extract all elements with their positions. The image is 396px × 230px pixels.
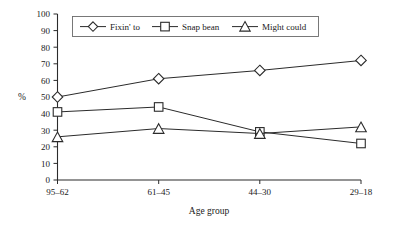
y-tick-label: 0: [46, 175, 51, 185]
series-layer: [52, 55, 366, 148]
square-marker: [53, 108, 62, 117]
x-tick-label: 29–18: [350, 187, 373, 197]
series-line: [58, 107, 362, 144]
y-tick-label: 50: [41, 92, 51, 102]
series-line: [58, 127, 362, 137]
x-axis-tick-labels: 95–62 61–45 44–30 29–18: [46, 187, 373, 197]
y-tick-label: 10: [41, 159, 51, 169]
y-tick-label: 80: [41, 43, 51, 53]
y-tick-label: 90: [41, 26, 51, 36]
line-chart: 100 90 80 70 60 50 40 30 20 10 0 % 95–62…: [0, 0, 396, 230]
series-line: [58, 60, 362, 97]
legend-label: Fixin' to: [110, 22, 140, 32]
y-axis-title: %: [18, 92, 26, 102]
y-tick-label: 100: [37, 9, 51, 19]
y-tick-label: 70: [41, 59, 51, 69]
y-tick-label: 20: [41, 142, 51, 152]
chart-canvas: 100 90 80 70 60 50 40 30 20 10 0 % 95–62…: [0, 0, 396, 230]
diamond-marker: [52, 92, 63, 103]
y-tick-label: 30: [41, 126, 51, 136]
square-marker: [357, 139, 366, 148]
x-tick-label: 95–62: [46, 187, 69, 197]
y-tick-label: 60: [41, 76, 51, 86]
diamond-marker: [356, 55, 367, 66]
x-tick-label: 44–30: [249, 187, 272, 197]
y-tick-label: 40: [41, 109, 51, 119]
diamond-marker: [255, 65, 266, 76]
x-axis-ticks: [58, 180, 362, 184]
x-axis-title: Age group: [189, 206, 230, 216]
square-marker-icon: [161, 22, 170, 31]
chart-legend: Fixin' to Snap bean Might could: [73, 17, 319, 37]
diamond-marker: [153, 73, 164, 84]
series-1: [52, 55, 366, 102]
legend-label: Snap bean: [182, 22, 220, 32]
legend-entry-snap-bean: Snap bean: [152, 22, 220, 32]
series-2: [53, 103, 365, 148]
legend-label: Might could: [262, 22, 307, 32]
x-tick-label: 61–45: [147, 187, 170, 197]
square-marker: [154, 103, 163, 112]
y-axis-tick-labels: 100 90 80 70 60 50 40 30 20 10 0: [37, 9, 51, 185]
